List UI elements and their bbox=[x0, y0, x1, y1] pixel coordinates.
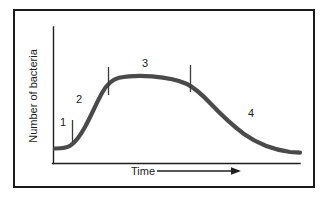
x-axis-label: Time bbox=[131, 165, 155, 177]
phase-label-1: 1 bbox=[60, 117, 66, 128]
growth-curve-line bbox=[55, 76, 300, 153]
phase-label-4: 4 bbox=[248, 108, 254, 119]
phase-label-2: 2 bbox=[76, 94, 82, 105]
y-axis-label: Number of bacteria bbox=[27, 49, 39, 143]
arrow-right-icon bbox=[231, 167, 241, 175]
growth-curve-chart bbox=[0, 0, 329, 199]
phase-label-3: 3 bbox=[142, 58, 148, 69]
